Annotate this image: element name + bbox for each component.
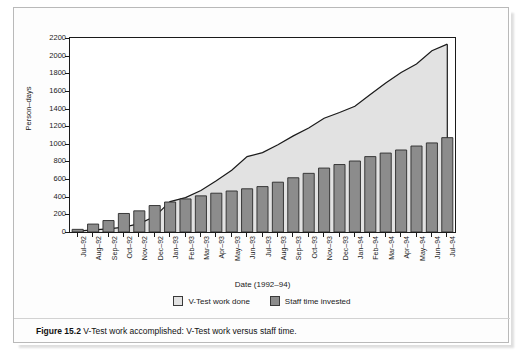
- bar-series-bar: [149, 206, 160, 232]
- figure-frame: Person–days 0200400600800100012001400160…: [13, 7, 509, 343]
- legend-item: Staff time invested: [270, 296, 351, 306]
- bar-series-bar: [226, 191, 237, 232]
- bar-series-bar: [288, 178, 299, 232]
- bar-series-bar: [349, 161, 360, 232]
- x-axis-tick-label: Mar–94: [388, 236, 395, 260]
- legend-item: V-Test work done: [173, 296, 249, 306]
- caption-divider: [14, 318, 510, 319]
- bar-series-bar: [303, 173, 314, 232]
- figure-caption-label: Figure 15.2: [36, 326, 81, 336]
- bar-series-bar: [242, 189, 253, 232]
- x-axis-tick-label: Aug–92: [95, 236, 102, 260]
- bar-series-bar: [211, 193, 222, 232]
- x-axis-tick-label: Jun–93: [249, 236, 256, 259]
- bar-series-bar: [442, 138, 453, 232]
- legend-label: Staff time invested: [285, 297, 351, 306]
- bar-series-bar: [411, 146, 422, 232]
- x-axis-tick-labels: Jul–92Aug–92Sep–92Oct–92Nov–92Dec–92Jan–…: [69, 236, 456, 282]
- bar-series-bar: [334, 165, 345, 232]
- legend-label: V-Test work done: [188, 297, 249, 306]
- x-axis-tick-label: Jul–93: [265, 236, 272, 257]
- bar-series-bar: [195, 196, 206, 232]
- bar-series-bar: [319, 168, 330, 232]
- x-axis-tick-label: Feb–94: [372, 236, 379, 260]
- bar-series-bar: [180, 199, 191, 232]
- chart-legend: V-Test work doneStaff time invested: [14, 296, 510, 306]
- x-axis-tick-label: Jun–94: [434, 236, 441, 259]
- plot-area: [69, 37, 456, 233]
- x-axis-tick-label: May–93: [234, 236, 241, 261]
- bar-series-bar: [103, 221, 114, 232]
- x-axis-tick-label: Oct–92: [126, 236, 133, 259]
- x-axis-tick-label: Mar–93: [203, 236, 210, 260]
- x-axis-tick-label: Jan–94: [357, 236, 364, 259]
- x-axis-tick-label: Jan–93: [172, 236, 179, 259]
- bar-series-bar: [134, 211, 145, 232]
- chart-region: Person–days 0200400600800100012001400160…: [14, 8, 510, 308]
- figure-caption-text: V-Test work accomplished: V-Test work ve…: [83, 326, 296, 336]
- x-axis-tick-label: Jul–94: [449, 236, 456, 257]
- bar-series-bar: [365, 157, 376, 232]
- x-axis-tick-label: Apr–94: [403, 236, 410, 259]
- bar-series-bar: [118, 213, 129, 232]
- x-axis-tick-label: Oct–93: [311, 236, 318, 259]
- bar-series-bar: [257, 187, 268, 232]
- bar-series-bar: [272, 182, 283, 232]
- bar-series-bar: [380, 153, 391, 232]
- bar-series-bar: [396, 150, 407, 232]
- legend-swatch: [173, 296, 183, 306]
- x-axis-tick-label: Feb–93: [188, 236, 195, 260]
- chart-canvas: [70, 38, 455, 232]
- bar-series-bar: [165, 202, 176, 232]
- x-axis-tick-label: Dec–92: [157, 236, 164, 260]
- figure-caption: Figure 15.2 V-Test work accomplished: V-…: [36, 325, 496, 337]
- bar-series-bar: [88, 224, 99, 232]
- x-axis-tick-label: Dec–93: [342, 236, 349, 260]
- legend-swatch: [270, 296, 280, 306]
- x-axis-tick-label: Nov–92: [141, 236, 148, 260]
- x-axis-tick-label: Aug–93: [280, 236, 287, 260]
- x-axis-tick-label: Apr–93: [218, 236, 225, 259]
- x-axis-tick-label: May–94: [419, 236, 426, 261]
- x-axis-tick-label: Nov–93: [326, 236, 333, 260]
- bar-series-bar: [426, 143, 437, 232]
- bar-series-bar: [72, 229, 83, 232]
- x-axis-title: Date (1992–94): [69, 280, 456, 289]
- x-axis-tick-label: Sep–92: [111, 236, 118, 260]
- x-axis-tick-label: Jul–92: [80, 236, 87, 257]
- x-axis-tick-label: Sep–93: [295, 236, 302, 260]
- y-axis-tick-marks: [14, 37, 69, 233]
